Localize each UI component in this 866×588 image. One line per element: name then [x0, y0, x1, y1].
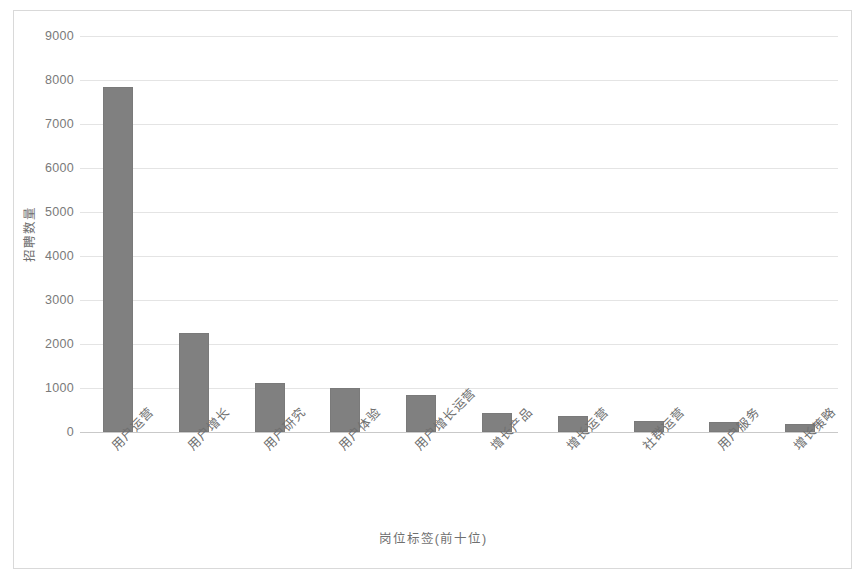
gridline — [80, 168, 838, 169]
y-axis-tick-label: 2000 — [10, 338, 74, 351]
bar — [558, 416, 588, 432]
bar — [255, 383, 285, 432]
gridline — [80, 36, 838, 37]
plot-area — [80, 36, 838, 432]
gridline — [80, 80, 838, 81]
y-axis-tick-label: 3000 — [10, 294, 74, 307]
y-axis-tick-label: 4000 — [10, 250, 74, 263]
bar — [406, 395, 436, 432]
gridline — [80, 300, 838, 301]
x-axis-line — [80, 432, 838, 433]
bar — [482, 413, 512, 432]
y-axis-tick-label: 0 — [10, 426, 74, 439]
bar — [785, 424, 815, 432]
y-axis-tick-labels: 0100020003000400050006000700080009000 — [4, 36, 74, 432]
x-axis-title: 岗位标签(前十位) — [0, 528, 866, 547]
y-axis-tick-label: 7000 — [10, 118, 74, 131]
y-axis-tick-label: 9000 — [10, 30, 74, 43]
y-axis-tick-label: 6000 — [10, 162, 74, 175]
gridline — [80, 256, 838, 257]
y-axis-tick-label: 1000 — [10, 382, 74, 395]
bar — [634, 421, 664, 432]
gridline — [80, 124, 838, 125]
y-axis-tick-label: 5000 — [10, 206, 74, 219]
bar — [103, 87, 133, 432]
bar — [330, 388, 360, 432]
bar — [179, 333, 209, 432]
gridline — [80, 212, 838, 213]
y-axis-tick-label: 8000 — [10, 74, 74, 87]
chart-figure: 招聘数量 01000200030004000500060007000800090… — [0, 0, 866, 588]
bar — [709, 422, 739, 432]
